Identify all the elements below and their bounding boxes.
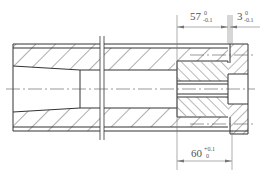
tolerance-upper: 0 [245, 10, 248, 16]
section-drawing [0, 0, 267, 179]
dimension-57: 57 [190, 11, 201, 22]
dimension-3: 3 [237, 11, 243, 22]
tolerance-lower: 0 [206, 153, 209, 159]
tolerance-lower: -0.1 [203, 17, 213, 23]
dimension-nominal: 60 [191, 147, 202, 159]
tolerance-upper: 0 [204, 10, 207, 16]
dimension-nominal: 57 [190, 10, 201, 22]
dimension-60: 60 [191, 148, 202, 159]
tolerance-lower: -0.1 [244, 17, 254, 23]
dimension-nominal: 3 [237, 10, 243, 22]
tolerance-upper: +0.1 [204, 146, 215, 152]
break-lines [100, 36, 104, 140]
